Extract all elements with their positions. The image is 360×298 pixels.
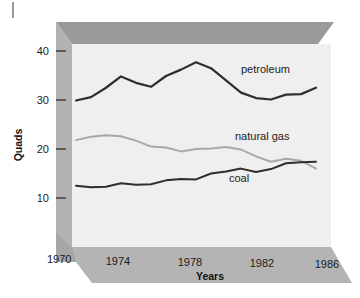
- x-tick-label: 1970: [47, 253, 71, 265]
- x-tick-label: 1978: [178, 256, 202, 268]
- series-label-natural-gas: natural gas: [235, 130, 290, 142]
- series-label-coal: coal: [229, 172, 249, 184]
- y-tick-label: 30: [37, 94, 49, 106]
- x-axis-title: Years: [196, 270, 224, 282]
- x-tick-label: 1974: [106, 255, 130, 267]
- chart-figure: 40 30 20 10 Quads petroleum: [0, 0, 360, 298]
- y-tick-label: 10: [37, 192, 49, 204]
- y-axis-title: Quads: [12, 129, 24, 162]
- y-tick-label: 20: [37, 143, 49, 155]
- y-tick-label: 40: [37, 45, 49, 57]
- chart-svg: 40 30 20 10 Quads petroleum: [0, 0, 360, 298]
- left-wall: [56, 22, 72, 247]
- series-label-petroleum: petroleum: [241, 63, 290, 75]
- plot-area: [72, 44, 331, 247]
- x-tick-label: 1982: [250, 257, 274, 269]
- x-tick-label: 1986: [315, 258, 339, 270]
- top-band: [56, 22, 334, 44]
